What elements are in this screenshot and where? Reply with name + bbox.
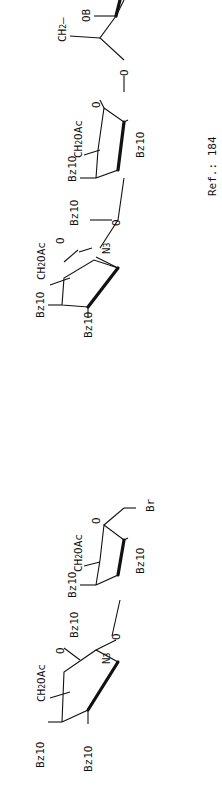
ring-d [80, 76, 128, 220]
label-bz1o: Bz1O [82, 312, 95, 339]
ring-c [48, 220, 118, 318]
label-ring-o: O [90, 517, 103, 524]
label-ch2: CH2– [56, 17, 69, 42]
label-bz1o: Bz1O [66, 156, 79, 183]
label-bz1o: Bz1O [68, 200, 81, 227]
label-link-o: O [110, 633, 123, 640]
label-bz1o: Bz1O [134, 132, 147, 159]
label-bz1o: Bz1O [82, 746, 95, 773]
label-link-o: O [118, 69, 131, 76]
label-bz1o: Bz1O [34, 742, 47, 769]
label-ring-o: O [54, 647, 67, 654]
ring-d-bold-bond [118, 122, 124, 170]
chemical-structure-diagram: Bz1O Bz1O CH2OAc O Bz1O N3 O Bz1O CH2OAc… [0, 0, 222, 787]
label-ch2oac: CH2OAc [72, 534, 85, 572]
label-ring-o: O [90, 101, 103, 108]
label-ch2oac: CH2OAc [35, 242, 48, 280]
ring-b [80, 508, 136, 585]
label-n3: N3 [100, 652, 113, 664]
ring-e [70, 0, 124, 60]
label-bz1o: Bz1O [134, 548, 147, 575]
label-link-o: O [110, 219, 123, 226]
label-br: Br [144, 498, 157, 512]
label-bz1o: Bz1O [34, 292, 47, 319]
label-bz1o: Bz1O [66, 572, 79, 599]
label-ch2oac: CH2OAc [72, 120, 85, 158]
label-ring-o: O [54, 237, 67, 244]
label-bz1o: Bz1O [68, 612, 81, 639]
label-ch2oac: CH2OAc [35, 664, 48, 702]
reference-label: Ref.: 184 [206, 136, 219, 196]
ring-a-bold-bond [88, 662, 118, 710]
label-ob: OB [80, 8, 93, 22]
ring-c-bold-bond [88, 268, 118, 307]
ring-b-bold-bond [118, 540, 124, 575]
ring-e-bold-bond [116, 0, 120, 16]
